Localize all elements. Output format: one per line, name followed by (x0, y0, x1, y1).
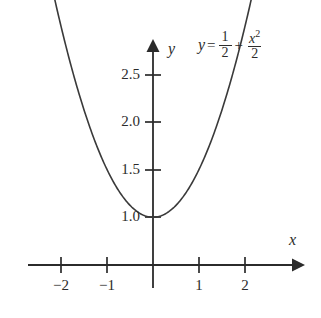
equation-term-one: 1 2 (219, 30, 232, 60)
equation-term-one-numerator: 1 (219, 30, 232, 44)
function-plot-figure: y = 1 2 + x2 2 y x 1.0 1.5 2.0 2.5 −2 −1… (0, 0, 321, 318)
equation-lhs: y (198, 36, 205, 54)
equation-term-two-denominator: 2 (248, 46, 261, 61)
y-tick-label-1.0: 1.0 (96, 208, 140, 225)
equation-annotation: y = 1 2 + x2 2 (198, 29, 264, 61)
y-tick-label-1.5: 1.5 (96, 161, 140, 178)
x-tick-label--2: −2 (48, 277, 74, 294)
x-tick-label-2: 2 (232, 277, 258, 294)
y-axis-label: y (168, 40, 175, 58)
equation-term-two-numerator: x2 (246, 29, 263, 46)
equation-term-two-exponent: 2 (255, 28, 260, 39)
x-axis-arrowhead (292, 259, 305, 272)
x-axis-label: x (289, 231, 296, 249)
y-axis-arrowhead (147, 39, 160, 52)
equation-plus: + (235, 37, 243, 54)
x-tick-label--1: −1 (94, 277, 120, 294)
plot-canvas (0, 0, 321, 318)
x-tick-label-1: 1 (186, 277, 212, 294)
y-tick-label-2.0: 2.0 (96, 113, 140, 130)
equation-term-one-denominator: 2 (219, 45, 232, 60)
equation-term-two: x2 2 (246, 29, 263, 61)
equation-equals: = (207, 37, 215, 54)
y-tick-label-2.5: 2.5 (96, 66, 140, 83)
